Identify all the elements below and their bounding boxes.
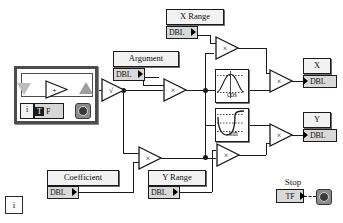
y-range-terminal-arrow-icon [173, 188, 178, 196]
y-output-terminal[interactable]: DBL [303, 129, 337, 142]
wire-junction-b-down [205, 90, 206, 158]
x-output-label: X [303, 58, 331, 74]
iteration-terminal-label: i [26, 105, 28, 114]
wire-to-multxrange [205, 53, 214, 54]
wire-coeff-b [133, 162, 134, 193]
wire-stop-dashed [304, 196, 316, 197]
y-output-label: Y [303, 112, 331, 128]
wire-junction-b-up [205, 53, 206, 90]
multiply-yrange-glyph: × [212, 151, 240, 160]
coefficient-terminal-label: DBL [50, 187, 65, 198]
sine-function-label: sin [229, 129, 238, 138]
add-node[interactable]: + [45, 80, 68, 99]
multiply-coeff-node[interactable]: × [138, 146, 162, 170]
cosine-function[interactable]: cos [215, 69, 249, 103]
multiply-arg-glyph: × [159, 86, 187, 95]
multiply-x-out-glyph: × [265, 77, 293, 86]
sine-function[interactable]: sin [215, 108, 249, 142]
conditional-terminal-false: F [44, 107, 52, 116]
wire-multyrange-up [266, 143, 267, 155]
argument-terminal-label: DBL [116, 69, 131, 80]
x-output-terminal[interactable]: DBL [303, 75, 337, 88]
coefficient-terminal-arrow-icon [72, 188, 77, 196]
block-diagram-canvas: + i T F √ × × × [0, 0, 343, 223]
wire-xrange-a [196, 35, 210, 36]
cosine-function-label: cos [227, 90, 237, 99]
wire-cos-out [247, 90, 270, 91]
x-range-terminal-arrow-icon [191, 28, 196, 36]
wire-coeff-a [79, 192, 133, 193]
wire-multyrange-out [239, 155, 266, 156]
argument-label: Argument [113, 51, 179, 67]
multiply-y-out-glyph: × [265, 131, 293, 140]
figure-marker: i [5, 196, 23, 214]
multiply-xrange-glyph: × [211, 44, 239, 53]
shift-register-right-icon[interactable] [79, 82, 93, 94]
wire-multxrange-down [266, 48, 267, 73]
y-output-terminal-arrow-icon [303, 131, 308, 139]
multiply-y-out-node[interactable]: × [269, 123, 293, 147]
wire-yrange-a [180, 192, 212, 193]
x-range-terminal-label: DBL [169, 27, 184, 38]
wire-multcoeff-out [161, 158, 206, 159]
multiply-yrange-node[interactable]: × [216, 143, 240, 167]
x-output-terminal-arrow-icon [303, 77, 308, 85]
stop-button-icon-inner [319, 192, 329, 202]
sqrt-node-glyph: √ [97, 86, 125, 95]
multiply-arg-node[interactable]: × [163, 78, 187, 102]
stop-terminal-label: TF [286, 191, 295, 202]
wire-to-cos [205, 90, 215, 91]
stop-label: Stop [276, 177, 310, 187]
iteration-terminal[interactable]: i [20, 103, 34, 119]
wire-y-out [292, 135, 303, 136]
add-node-glyph: + [41, 86, 68, 95]
stop-condition-icon-inner [78, 106, 88, 116]
conditional-terminal[interactable]: T F [34, 103, 64, 119]
y-range-terminal-label: DBL [151, 187, 166, 198]
stop-button-icon[interactable] [316, 189, 332, 205]
x-output-terminal-label: DBL [310, 76, 325, 87]
wire-multxrange-out [238, 48, 266, 49]
multiply-x-out-node[interactable]: × [269, 69, 293, 93]
sqrt-node[interactable]: √ [101, 78, 125, 102]
multiply-xrange-node[interactable]: × [215, 36, 239, 60]
wire-xrange-b [210, 35, 211, 43]
wire-to-sin [205, 125, 215, 126]
y-range-label: Y Range [148, 170, 206, 186]
conditional-terminal-true: T [35, 107, 44, 116]
argument-terminal-arrow-icon [138, 70, 143, 78]
wire-x-out [292, 81, 303, 82]
wire-argument-a [143, 77, 159, 78]
y-output-terminal-label: DBL [310, 130, 325, 141]
multiply-coeff-glyph: × [134, 154, 162, 163]
coefficient-label: Coefficient [47, 170, 119, 186]
shift-register-left-icon[interactable] [17, 83, 31, 95]
stop-terminal-arrow-icon [300, 192, 305, 200]
stop-condition-icon[interactable] [75, 103, 91, 119]
x-range-label: X Range [166, 9, 224, 25]
wire-sin-out [247, 125, 270, 126]
